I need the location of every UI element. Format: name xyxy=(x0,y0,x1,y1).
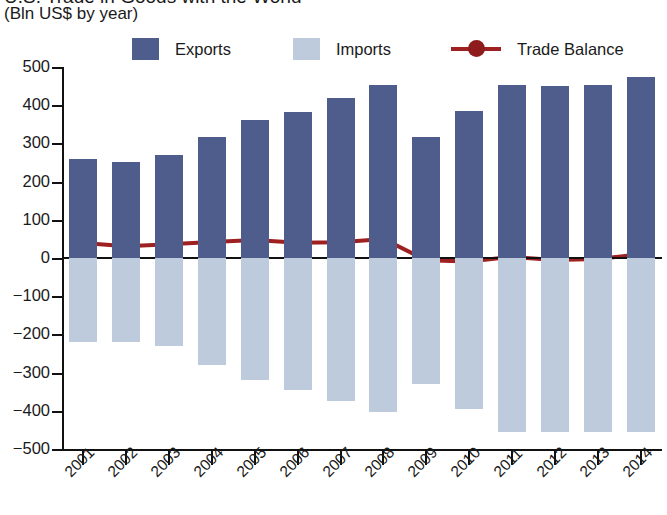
x-axis-line xyxy=(62,449,662,451)
y-axis-tick-label: 0 xyxy=(2,248,50,267)
y-axis-tick-label: 200 xyxy=(2,172,50,191)
y-axis-tick xyxy=(52,105,63,107)
y-axis-tick xyxy=(52,411,63,413)
y-axis-tick xyxy=(52,182,63,184)
bar-export xyxy=(155,155,183,258)
bar-export xyxy=(412,137,440,258)
bar-export xyxy=(327,98,355,258)
trade-chart: U.S. Trade in Goods with the World (Bln … xyxy=(0,0,667,515)
bar-import xyxy=(584,258,612,432)
y-axis-tick xyxy=(52,220,63,222)
bar-export xyxy=(584,85,612,258)
legend-label-exports: Exports xyxy=(175,40,231,59)
y-axis-tick-label: 300 xyxy=(2,133,50,152)
y-axis-tick-label: −500 xyxy=(2,439,50,458)
imports-color-swatch xyxy=(293,38,320,60)
bar-export xyxy=(112,162,140,258)
y-axis-tick xyxy=(52,334,63,336)
y-axis-tick-label: −100 xyxy=(2,286,50,305)
bar-export xyxy=(198,137,226,258)
legend-item-exports: Exports xyxy=(132,38,231,60)
bar-export xyxy=(369,85,397,258)
plot-area xyxy=(62,67,662,449)
bar-import xyxy=(541,258,569,432)
bar-import xyxy=(198,258,226,365)
legend-item-trade-balance: Trade Balance xyxy=(451,38,624,60)
legend-item-imports: Imports xyxy=(293,38,391,60)
bar-import xyxy=(412,258,440,384)
bar-import xyxy=(284,258,312,390)
exports-color-swatch xyxy=(132,38,159,60)
y-axis-tick-label: −400 xyxy=(2,401,50,420)
y-axis-labels: 5004003002001000−100−200−300−400−500 xyxy=(0,0,50,515)
legend-label-trade-balance: Trade Balance xyxy=(517,40,624,59)
bar-export xyxy=(627,77,655,258)
bar-import xyxy=(69,258,97,342)
bar-import xyxy=(112,258,140,342)
bar-import xyxy=(241,258,269,380)
bar-export xyxy=(69,159,97,258)
y-axis-tick-label: 100 xyxy=(2,210,50,229)
y-axis-tick xyxy=(52,296,63,298)
chart-legend: Exports Imports Trade Balance xyxy=(132,36,624,62)
y-axis-tick xyxy=(52,258,63,260)
bar-import xyxy=(327,258,355,401)
y-axis-tick xyxy=(52,143,63,145)
y-axis-tick-label: −300 xyxy=(2,363,50,382)
bar-import xyxy=(455,258,483,409)
y-axis-tick xyxy=(52,449,63,451)
legend-label-imports: Imports xyxy=(336,40,391,59)
bar-export xyxy=(541,86,569,258)
bar-import xyxy=(627,258,655,432)
bar-import xyxy=(498,258,526,432)
y-axis-tick xyxy=(52,373,63,375)
y-axis-tick-label: −200 xyxy=(2,324,50,343)
bar-export xyxy=(284,112,312,258)
y-axis-tick-label: 500 xyxy=(2,57,50,76)
bar-export xyxy=(455,111,483,258)
y-axis-tick-label: 400 xyxy=(2,95,50,114)
zero-baseline xyxy=(62,257,662,259)
bar-import xyxy=(369,258,397,412)
trade-balance-line-marker-icon xyxy=(451,38,501,60)
bar-export xyxy=(241,120,269,258)
y-axis-tick xyxy=(52,67,63,69)
bar-export xyxy=(498,85,526,258)
bar-import xyxy=(155,258,183,346)
